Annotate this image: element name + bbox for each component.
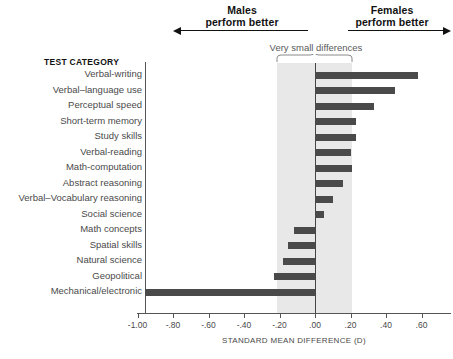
x-tick <box>351 313 352 318</box>
males-label-line1: Males <box>163 5 321 17</box>
bar-study-skills <box>315 134 356 141</box>
females-label-line1: Females <box>333 5 451 17</box>
table-row: Math-computation <box>0 160 453 176</box>
chart-figure: Males perform better Females perform bet… <box>0 0 453 359</box>
left-arrow-icon <box>173 27 181 35</box>
category-label: Study skills <box>94 130 142 141</box>
x-tick-label: -.40 <box>224 320 264 330</box>
x-tick-label: -.20 <box>260 320 300 330</box>
bar-mechanical-electronic <box>145 289 315 296</box>
category-label: Abstract reasoning <box>63 177 142 188</box>
category-label: Verbal-writing <box>84 68 142 79</box>
bar-natural-science <box>283 258 315 265</box>
very-small-differences-label: Very small differences <box>248 42 384 53</box>
x-axis-line <box>137 313 451 314</box>
bar-verbal-reading <box>315 149 351 156</box>
category-label: Short-term memory <box>60 115 142 126</box>
x-tick <box>209 313 210 318</box>
x-tick <box>244 313 245 318</box>
bar-short-term-memory <box>315 118 356 125</box>
table-row: Verbal–language use <box>0 83 453 99</box>
brace-icon <box>276 54 353 63</box>
females-arrow-line <box>348 30 444 31</box>
x-tick-label: .40 <box>366 320 406 330</box>
x-tick <box>173 313 174 318</box>
x-tick <box>315 313 316 318</box>
table-row: Abstract reasoning <box>0 176 453 192</box>
females-direction-label: Females perform better <box>333 5 451 28</box>
category-label: Math concepts <box>80 223 142 234</box>
test-category-header: TEST CATEGORY <box>44 57 119 67</box>
bar-spatial-skills <box>288 242 315 249</box>
category-label: Social science <box>81 208 142 219</box>
table-row: Natural science <box>0 253 453 269</box>
category-label: Mechanical/electronic <box>51 285 142 296</box>
x-tick <box>280 313 281 318</box>
table-row: Social science <box>0 207 453 223</box>
category-label: Math-computation <box>66 161 142 172</box>
x-tick-label: .60 <box>402 320 442 330</box>
table-row: Verbal-writing <box>0 67 453 83</box>
females-label-line2: perform better <box>333 17 451 29</box>
bar-math-computation <box>315 165 352 172</box>
category-label: Geopolitical <box>92 270 142 281</box>
category-label: Spatial skills <box>90 239 142 250</box>
x-tick <box>386 313 387 318</box>
bar-geopolitical <box>274 273 315 280</box>
x-tick-label: -1.00 <box>118 320 158 330</box>
category-label: Verbal–language use <box>53 84 142 95</box>
x-tick-label: -.80 <box>153 320 193 330</box>
right-arrow-icon <box>443 27 451 35</box>
bar-verbal-language-use <box>315 87 395 94</box>
table-row: Mechanical/electronic <box>0 284 453 300</box>
x-tick-label: -.60 <box>189 320 229 330</box>
table-row: Perceptual speed <box>0 98 453 114</box>
category-label: Verbal–Vocabulary reasoning <box>18 192 142 203</box>
males-label-line2: perform better <box>163 17 321 29</box>
category-label: Natural science <box>77 254 142 265</box>
table-row: Short-term memory <box>0 114 453 130</box>
x-tick <box>422 313 423 318</box>
males-arrow-line <box>180 30 308 31</box>
bar-social-science <box>315 211 324 218</box>
table-row: Verbal-reading <box>0 145 453 161</box>
bar-perceptual-speed <box>315 103 374 110</box>
category-label: Verbal-reading <box>80 146 142 157</box>
table-row: Geopolitical <box>0 269 453 285</box>
bar-math-concepts <box>294 227 315 234</box>
category-label: Perceptual speed <box>68 99 142 110</box>
bar-abstract-reasoning <box>315 180 343 187</box>
bar-verbal-vocabulary-reasoning <box>315 196 333 203</box>
x-tick-label: .20 <box>331 320 371 330</box>
x-axis-title: STANDARD MEAN DIFFERENCE (D) <box>137 336 451 345</box>
table-row: Verbal–Vocabulary reasoning <box>0 191 453 207</box>
x-tick <box>138 313 139 318</box>
table-row: Study skills <box>0 129 453 145</box>
table-row: Math concepts <box>0 222 453 238</box>
males-direction-label: Males perform better <box>163 5 321 28</box>
x-tick-label: .00 <box>295 320 335 330</box>
table-row: Spatial skills <box>0 238 453 254</box>
bar-verbal-writing <box>315 72 418 79</box>
